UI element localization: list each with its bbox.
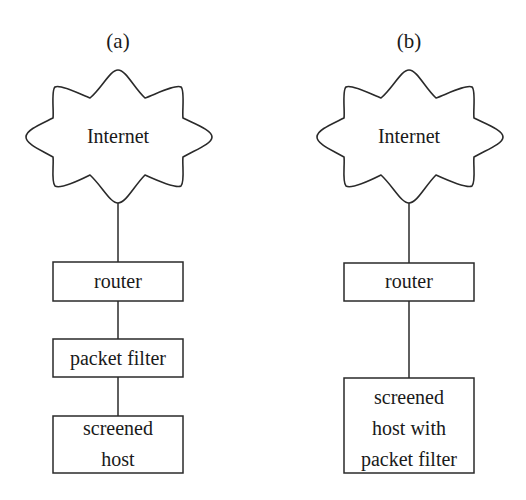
network-diagram: (a) Internet router packet filter screen… [0, 0, 526, 500]
internet-cloud-a: Internet [26, 70, 212, 203]
cloud-label: Internet [87, 125, 150, 147]
internet-cloud-b: Internet [317, 70, 503, 203]
panel-a-label: (a) [106, 29, 129, 53]
router-label: router [94, 270, 142, 292]
screened-host-with-filter-node-b: screened host with packet filter [344, 378, 474, 473]
router-label: router [385, 270, 433, 292]
packet-filter-label: packet filter [70, 347, 166, 370]
router-node-b: router [344, 263, 474, 301]
router-node-a: router [53, 262, 183, 301]
panel-b-label: (b) [397, 29, 422, 53]
packet-filter-node-a: packet filter [53, 339, 183, 377]
cloud-label: Internet [378, 125, 441, 147]
host-label-line3: packet filter [361, 448, 457, 471]
panel-a: (a) Internet router packet filter screen… [26, 29, 212, 473]
screened-host-label-line2: host [101, 448, 135, 470]
host-label-line1: screened [374, 386, 444, 408]
host-label-line2: host with [372, 417, 446, 439]
screened-host-node-a: screened host [53, 416, 183, 473]
panel-b: (b) Internet router screened host with p… [317, 29, 503, 473]
screened-host-label-line1: screened [83, 417, 153, 439]
